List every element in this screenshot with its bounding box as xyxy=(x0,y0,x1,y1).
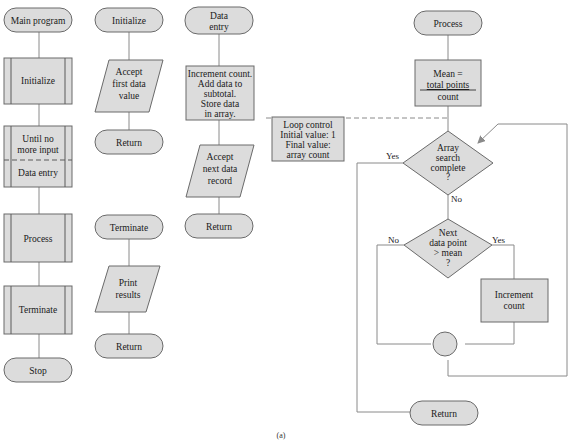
svg-text:data point: data point xyxy=(429,238,467,248)
svg-text:Final value:: Final value: xyxy=(285,140,330,150)
io-print-results: Print results xyxy=(95,266,160,312)
main-program-flow: Main program Initialize Until no more in… xyxy=(4,8,72,382)
io-accept-first-data: Accept first data value xyxy=(95,60,163,112)
initialize-module-flow: Initialize Accept first data value Retur… xyxy=(95,8,163,154)
connector-circle xyxy=(433,332,457,356)
svg-text:?: ? xyxy=(446,258,450,268)
svg-text:Accept: Accept xyxy=(116,67,143,77)
svg-text:Initialize: Initialize xyxy=(112,16,146,26)
svg-text:entry: entry xyxy=(209,22,229,32)
annotation-loop-control: Loop control Initial value: 1 Final valu… xyxy=(272,117,344,161)
process-compute-mean: Mean = total points count xyxy=(415,60,481,106)
svg-text:Terminate: Terminate xyxy=(110,223,148,233)
terminate-module-flow: Terminate Print results Return xyxy=(95,215,163,358)
process-increment-store: Increment count. Add data to subtotal. S… xyxy=(186,66,254,120)
svg-text:Return: Return xyxy=(431,409,457,419)
svg-text:Print: Print xyxy=(119,278,138,288)
svg-text:Increment count.: Increment count. xyxy=(188,69,252,79)
svg-text:Data entry: Data entry xyxy=(18,168,58,178)
svg-text:Store data: Store data xyxy=(201,99,240,109)
svg-text:Return: Return xyxy=(116,342,142,352)
terminal-process-return: Return xyxy=(410,401,478,425)
terminal-terminate: Terminate xyxy=(95,215,163,239)
svg-text:count: count xyxy=(503,301,524,311)
svg-text:subtotal.: subtotal. xyxy=(204,89,236,99)
label-no-decision2: No xyxy=(388,235,399,245)
terminal-data-entry: Data entry xyxy=(185,7,253,34)
process-module-flow: Process Mean = total points count Loop c… xyxy=(266,11,567,425)
svg-text:results: results xyxy=(116,290,141,300)
svg-text:Mean =: Mean = xyxy=(433,69,462,79)
svg-text:Increment: Increment xyxy=(495,290,534,300)
loop-data-entry-block: Until no more input Data entry xyxy=(4,126,72,187)
svg-text:value: value xyxy=(119,91,140,101)
predefined-process-process: Process xyxy=(4,214,72,262)
predefined-process-initialize: Initialize xyxy=(4,58,72,104)
terminal-initialize: Initialize xyxy=(95,8,163,32)
terminal-main-program: Main program xyxy=(4,8,72,32)
svg-text:Initialize: Initialize xyxy=(21,76,55,86)
process-increment-count: Increment count xyxy=(481,279,548,322)
svg-text:next data: next data xyxy=(203,164,238,174)
terminal-data-entry-return: Return xyxy=(185,214,253,238)
svg-text:count: count xyxy=(437,92,458,102)
label-no-decision1: No xyxy=(451,194,462,204)
svg-text:Array: Array xyxy=(437,143,459,153)
svg-text:Return: Return xyxy=(116,138,142,148)
svg-text:Accept: Accept xyxy=(207,152,234,162)
decision-array-search-complete: Array search complete ? xyxy=(403,131,493,195)
predefined-process-terminate: Terminate xyxy=(4,286,72,334)
svg-text:Initial value: 1: Initial value: 1 xyxy=(280,130,336,140)
svg-text:Until no: Until no xyxy=(22,134,54,144)
terminal-process: Process xyxy=(414,11,482,35)
svg-text:total points: total points xyxy=(427,80,470,90)
svg-text:Next: Next xyxy=(439,228,458,238)
svg-text:Return: Return xyxy=(206,222,232,232)
svg-text:Data: Data xyxy=(210,11,229,21)
decision-next-data-point-greater-mean: Next data point > mean ? xyxy=(404,219,492,278)
svg-text:?: ? xyxy=(446,172,450,182)
terminal-initialize-return: Return xyxy=(95,130,163,154)
svg-text:record: record xyxy=(208,176,233,186)
svg-text:Stop: Stop xyxy=(29,366,47,376)
svg-text:> mean: > mean xyxy=(434,248,463,258)
flowchart-canvas: Main program Initialize Until no more in… xyxy=(0,0,568,444)
figure-caption: (a) xyxy=(277,431,286,440)
svg-text:Loop control: Loop control xyxy=(283,120,333,130)
svg-text:Process: Process xyxy=(23,234,52,244)
svg-text:Process: Process xyxy=(433,19,462,29)
svg-text:Terminate: Terminate xyxy=(19,305,57,315)
svg-text:array count: array count xyxy=(287,150,330,160)
svg-text:search: search xyxy=(436,153,461,163)
svg-text:Main program: Main program xyxy=(11,16,66,26)
terminal-terminate-return: Return xyxy=(95,334,163,358)
io-accept-next-record: Accept next data record xyxy=(186,145,254,197)
svg-text:more input: more input xyxy=(17,145,59,155)
svg-text:first data: first data xyxy=(112,79,146,89)
label-yes-decision2: Yes xyxy=(492,235,506,245)
label-yes-decision1: Yes xyxy=(386,151,400,161)
terminal-stop: Stop xyxy=(4,358,72,382)
svg-text:in array.: in array. xyxy=(204,109,235,119)
data-entry-module-flow: Data entry Increment count. Add data to … xyxy=(185,7,254,238)
svg-text:Add data to: Add data to xyxy=(198,79,243,89)
